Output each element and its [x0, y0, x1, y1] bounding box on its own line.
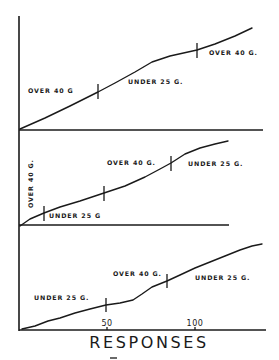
panel-bottom-curve: [22, 244, 262, 329]
panel-middle-label-over40: OVER 40 G.: [107, 159, 156, 166]
cumulative-record-figure: OVER 40 G UNDER 25 G. OVER 40 G. OVER 40…: [0, 0, 279, 360]
panel-bottom-label-over40: OVER 40 G.: [113, 270, 162, 277]
panel-middle-label-over40-vertical: OVER 40 G.: [27, 159, 34, 208]
panel-top-label-over40-right: OVER 40 G.: [209, 49, 258, 56]
x-tick-label-100: 100: [187, 319, 204, 328]
panel-middle-label-under25-right: UNDER 25 G.: [188, 160, 243, 167]
x-axis-title: RESPONSES: [89, 333, 208, 352]
panel-bottom-label-under25-right: UNDER 25 G.: [195, 274, 250, 281]
x-tick-label-50: 50: [101, 319, 112, 328]
x-axis: 50 100 RESPONSES: [89, 319, 208, 352]
panel-top-label-over40-left: OVER 40 G: [28, 87, 74, 94]
panel-top: OVER 40 G UNDER 25 G. OVER 40 G.: [19, 28, 263, 130]
panel-middle: OVER 40 G. UNDER 25 G OVER 40 G. UNDER 2…: [19, 141, 243, 226]
panel-bottom: UNDER 25 G. OVER 40 G. UNDER 25 G.: [19, 244, 266, 330]
panel-middle-label-under25-left: UNDER 25 G: [49, 212, 101, 219]
panel-top-label-under25: UNDER 25 G.: [128, 78, 183, 85]
panel-bottom-label-under25-left: UNDER 25 G.: [34, 294, 89, 301]
